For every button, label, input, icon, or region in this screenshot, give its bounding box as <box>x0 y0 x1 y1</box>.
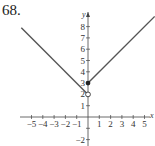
y-axis-label: y <box>81 10 86 19</box>
x-tick-label: −4 <box>38 119 48 129</box>
y-tick-label: 7 <box>81 33 86 43</box>
y-tick-label: 1 <box>81 101 86 111</box>
open-circle-icon <box>86 92 91 97</box>
x-tick-label: 4 <box>131 119 136 129</box>
x-tick-label: 2 <box>108 119 113 129</box>
x-tick-label: 1 <box>97 119 102 129</box>
y-axis-arrow-icon <box>86 12 90 17</box>
y-tick-label: 3 <box>81 78 86 88</box>
x-tick-label: −1 <box>72 119 82 129</box>
y-tick-label: −2 <box>75 135 85 145</box>
x-tick-label: −2 <box>61 119 71 129</box>
y-tick-label: 8 <box>81 22 86 32</box>
x-tick-label: 3 <box>120 119 125 129</box>
y-tick-label: 6 <box>81 44 86 54</box>
y-tick-label: 5 <box>81 56 86 66</box>
filled-circle-icon <box>86 81 91 86</box>
x-tick-label: 5 <box>142 119 147 129</box>
piecewise-graph: xy −5−4−3−2−112345−212345678 <box>0 0 155 146</box>
x-axis-label: x <box>149 111 154 120</box>
x-tick-label: −5 <box>27 119 37 129</box>
y-tick-label: 4 <box>81 67 86 77</box>
right-piece-line <box>88 16 155 83</box>
x-tick-label: −3 <box>49 119 59 129</box>
left-piece-line <box>21 28 88 95</box>
